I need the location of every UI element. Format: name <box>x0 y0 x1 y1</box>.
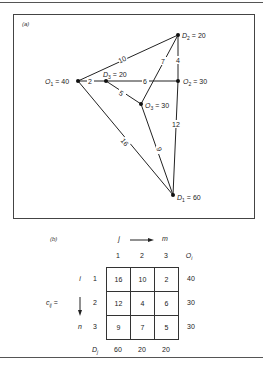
node-o3 <box>139 102 143 106</box>
node-o2 <box>176 79 180 83</box>
node-d3 <box>104 79 108 83</box>
origin-1: 40 <box>181 275 201 282</box>
bottom-rule <box>0 357 263 358</box>
destination-2: 20 <box>132 346 152 353</box>
edge-o3-d2 <box>141 35 178 104</box>
col-header-3: 3 <box>156 252 176 259</box>
cost-d3-o2: 6 <box>143 78 147 85</box>
cost-matrix: 16 10 2 12 4 6 9 7 5 <box>106 267 179 340</box>
col-index-end: m <box>155 235 175 242</box>
node-d1 <box>171 193 175 197</box>
down-arrow-icon <box>78 310 82 316</box>
col-header-2: 2 <box>132 252 152 259</box>
label-d2: D2= 20 <box>182 32 206 41</box>
label-o3: O3= 30 <box>145 102 169 111</box>
col-header-1: 1 <box>108 252 128 259</box>
label-d1: D1= 60 <box>177 194 201 203</box>
dest-label: Dj <box>85 346 105 355</box>
cell-3-2: 7 <box>131 316 155 340</box>
destination-1: 60 <box>108 346 128 353</box>
label-o1: O1= 40 <box>45 78 69 87</box>
cost-o1-d1: 16 <box>119 137 129 148</box>
panel-b-label: (b) <box>50 236 57 242</box>
cell-1-1: 16 <box>107 268 131 292</box>
edge-o2-d1 <box>173 81 178 195</box>
node-o1 <box>76 79 80 83</box>
row-header-2: 2 <box>85 299 105 306</box>
table-row: 9 7 5 <box>107 316 179 340</box>
cell-1-2: 10 <box>131 268 155 292</box>
origin-2: 30 <box>181 299 201 306</box>
cost-o1-d3: 2 <box>88 78 92 85</box>
node-d2 <box>176 33 180 37</box>
cell-2-2: 4 <box>131 292 155 316</box>
network-diagram: 2 10 16 6 5 7 4 12 9 O1= 40 D3= 20 O2= 3… <box>0 0 263 240</box>
cost-d2-o2: 4 <box>176 57 180 64</box>
row-header-1: 1 <box>85 275 105 282</box>
cost-o2-d1: 12 <box>172 121 180 128</box>
table-row: 12 4 6 <box>107 292 179 316</box>
origin-3: 30 <box>181 323 201 330</box>
cell-3-3: 5 <box>155 316 179 340</box>
row-index-end: n <box>70 323 90 330</box>
col-index-start: j <box>109 235 129 242</box>
origin-header: Oi <box>179 252 199 261</box>
cell-2-3: 6 <box>155 292 179 316</box>
destination-3: 20 <box>156 346 176 353</box>
cell-2-1: 12 <box>107 292 131 316</box>
matrix-label: cij = <box>46 299 58 308</box>
cell-1-3: 2 <box>155 268 179 292</box>
label-o2: O2= 30 <box>183 78 207 87</box>
cost-o3-d2: 7 <box>161 58 165 65</box>
label-d3: D3= 20 <box>103 71 127 80</box>
cell-3-1: 9 <box>107 316 131 340</box>
table-row: 16 10 2 <box>107 268 179 292</box>
